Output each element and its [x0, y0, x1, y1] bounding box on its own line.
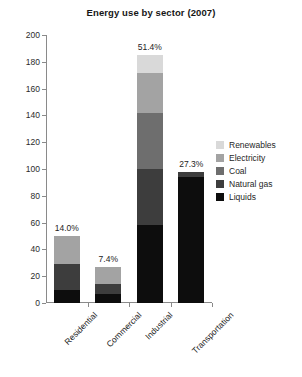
legend-item-label: Liquids	[229, 192, 256, 202]
bar-segment-natural-gas[interactable]	[95, 284, 121, 293]
bar-industrial[interactable]: 51.4%	[137, 55, 163, 303]
bar-segment-electricity[interactable]	[95, 267, 121, 284]
legend-item-coal[interactable]: Coal	[216, 166, 276, 176]
bar-segment-electricity[interactable]	[54, 236, 80, 264]
y-axis-tick	[42, 115, 46, 116]
bar-value-label: 7.4%	[99, 254, 118, 264]
y-axis-tick	[42, 142, 46, 143]
bar-value-label: 14.0%	[55, 223, 79, 233]
bar-value-label: 51.4%	[138, 42, 162, 52]
y-axis-tick	[42, 169, 46, 170]
legend-item-label: Coal	[229, 166, 246, 176]
y-axis-tick	[42, 249, 46, 250]
x-axis-category-label: Industrial	[143, 310, 174, 341]
legend-swatch-icon	[216, 141, 224, 149]
legend-item-renewables[interactable]: Renewables	[216, 140, 276, 150]
x-axis-tick	[171, 303, 172, 307]
bar-residential[interactable]: 14.0%	[54, 236, 80, 303]
y-axis-tick-label: 200	[26, 30, 40, 40]
y-axis-tick	[42, 303, 46, 304]
legend-swatch-icon	[216, 180, 224, 188]
y-axis-tick	[42, 89, 46, 90]
legend-item-electricity[interactable]: Electricity	[216, 153, 276, 163]
bar-segment-natural-gas[interactable]	[54, 264, 80, 289]
legend-item-liquids[interactable]: Liquids	[216, 192, 276, 202]
legend-item-natural-gas[interactable]: Natural gas	[216, 179, 276, 189]
x-axis-tick	[129, 303, 130, 307]
x-axis-category-label: Transportation	[190, 310, 236, 356]
legend-item-label: Renewables	[229, 140, 276, 150]
y-axis-tick-label: 100	[26, 164, 40, 174]
bar-segment-liquids[interactable]	[95, 294, 121, 303]
y-axis-tick-label: 140	[26, 110, 40, 120]
y-axis-tick	[42, 35, 46, 36]
x-axis-tick	[88, 303, 89, 307]
bar-segment-electricity[interactable]	[137, 73, 163, 113]
y-axis-line	[46, 35, 47, 303]
y-axis-tick	[42, 223, 46, 224]
plot-area: 020406080100120140160180200 Residential1…	[46, 35, 212, 303]
x-axis-tick	[212, 303, 213, 307]
legend-swatch-icon	[216, 193, 224, 201]
y-axis-tick-label: 60	[31, 218, 40, 228]
x-axis-category-label: Residential	[62, 310, 99, 347]
x-axis-category-label: Commercial	[105, 310, 144, 349]
bar-segment-renewables[interactable]	[137, 55, 163, 72]
bar-value-label: 27.3%	[179, 159, 203, 169]
bar-segment-liquids[interactable]	[137, 225, 163, 303]
y-axis-tick-label: 0	[35, 298, 40, 308]
bar-transportation[interactable]: 27.3%	[178, 172, 204, 303]
bar-segment-natural-gas[interactable]	[137, 169, 163, 225]
y-axis-tick-label: 160	[26, 84, 40, 94]
bar-commercial[interactable]: 7.4%	[95, 267, 121, 303]
legend-item-label: Natural gas	[229, 179, 272, 189]
y-axis-tick-label: 20	[31, 271, 40, 281]
bar-segment-liquids[interactable]	[54, 290, 80, 303]
y-axis-tick-label: 120	[26, 137, 40, 147]
y-axis-tick	[42, 196, 46, 197]
chart-title: Energy use by sector (2007)	[0, 7, 302, 18]
y-axis-tick-label: 40	[31, 244, 40, 254]
chart-legend: RenewablesElectricityCoalNatural gasLiqu…	[216, 140, 276, 202]
bar-segment-liquids[interactable]	[178, 177, 204, 303]
y-axis-tick	[42, 276, 46, 277]
bar-segment-coal[interactable]	[137, 113, 163, 169]
legend-swatch-icon	[216, 167, 224, 175]
legend-item-label: Electricity	[229, 153, 265, 163]
y-axis-tick-label: 80	[31, 191, 40, 201]
y-axis-tick	[42, 62, 46, 63]
y-axis-tick-label: 180	[26, 57, 40, 67]
legend-swatch-icon	[216, 154, 224, 162]
energy-use-chart: Energy use by sector (2007) 020406080100…	[0, 0, 302, 377]
